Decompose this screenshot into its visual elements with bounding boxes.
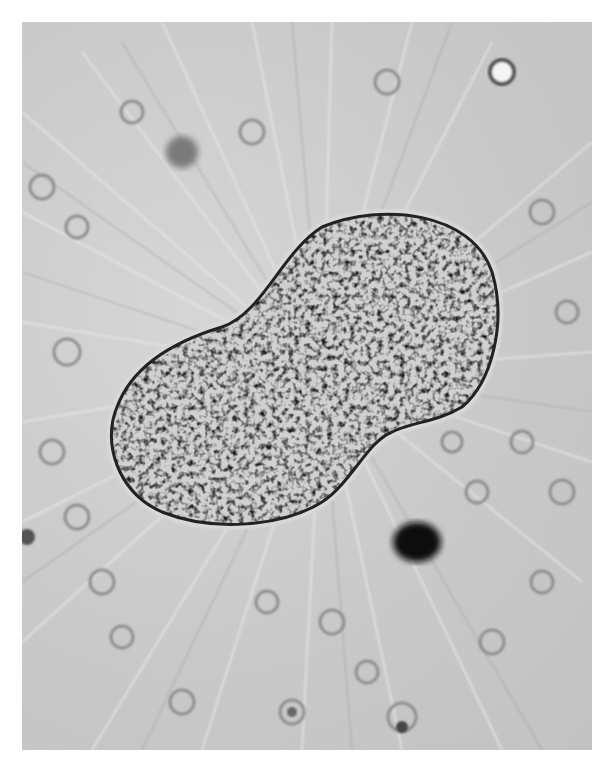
dark-particle — [393, 522, 441, 562]
micrograph-frame — [22, 22, 592, 750]
cell-body — [102, 202, 522, 542]
micrograph-illustration — [22, 22, 592, 750]
